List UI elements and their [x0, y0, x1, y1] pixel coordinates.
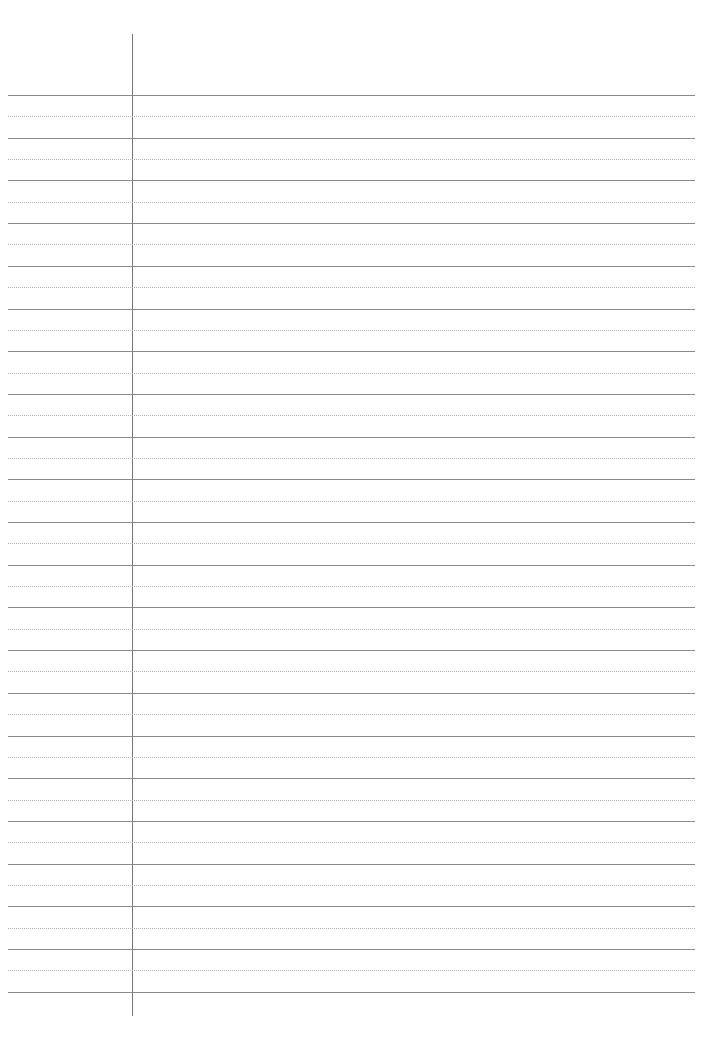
cue-column-divider — [132, 34, 133, 1016]
ruled-line — [8, 309, 695, 310]
dotted-guide-line — [8, 842, 695, 843]
dotted-guide-line — [8, 928, 695, 929]
dotted-guide-line — [8, 373, 695, 374]
dotted-guide-line — [8, 287, 695, 288]
dotted-guide-line — [8, 885, 695, 886]
dotted-guide-line — [8, 244, 695, 245]
dotted-guide-line — [8, 458, 695, 459]
ruled-line — [8, 95, 695, 96]
ruled-line — [8, 864, 695, 865]
ruled-line — [8, 266, 695, 267]
dotted-guide-line — [8, 501, 695, 502]
dotted-guide-line — [8, 757, 695, 758]
dotted-guide-line — [8, 202, 695, 203]
dotted-guide-line — [8, 970, 695, 971]
ruled-line — [8, 906, 695, 907]
ruled-line — [8, 437, 695, 438]
ruled-line — [8, 778, 695, 779]
dotted-guide-line — [8, 330, 695, 331]
ruled-line — [8, 693, 695, 694]
ruled-line — [8, 522, 695, 523]
ruled-line — [8, 180, 695, 181]
dotted-guide-line — [8, 415, 695, 416]
ruled-line — [8, 821, 695, 822]
ruled-line — [8, 223, 695, 224]
dotted-guide-line — [8, 159, 695, 160]
dotted-guide-line — [8, 800, 695, 801]
ruled-line — [8, 650, 695, 651]
dotted-guide-line — [8, 543, 695, 544]
dotted-guide-line — [8, 714, 695, 715]
ruled-line — [8, 479, 695, 480]
ruled-line — [8, 992, 695, 993]
ruled-line — [8, 607, 695, 608]
dotted-guide-line — [8, 116, 695, 117]
ruled-line — [8, 394, 695, 395]
dotted-guide-line — [8, 629, 695, 630]
ruled-line — [8, 138, 695, 139]
lined-paper — [0, 0, 716, 1048]
ruled-line — [8, 949, 695, 950]
ruled-line — [8, 565, 695, 566]
ruled-line — [8, 351, 695, 352]
ruled-line — [8, 736, 695, 737]
dotted-guide-line — [8, 586, 695, 587]
dotted-guide-line — [8, 671, 695, 672]
